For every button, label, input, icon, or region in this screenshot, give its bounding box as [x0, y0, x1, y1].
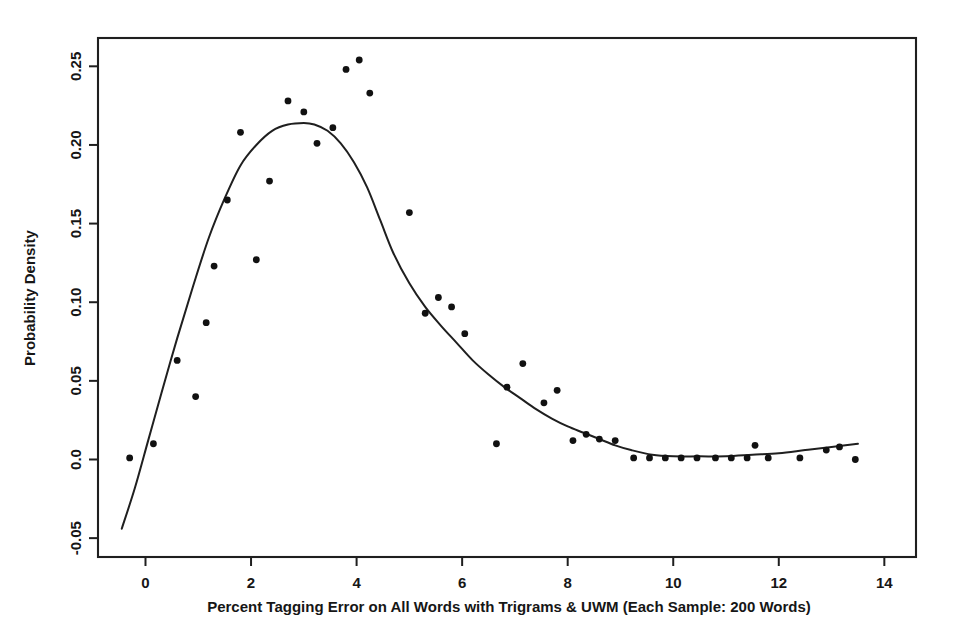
x-axis-title: Percent Tagging Error on All Words with … — [207, 598, 811, 615]
x-axis-tick-label: 0 — [141, 574, 149, 591]
y-axis-tick-label: 0.05 — [68, 366, 85, 395]
scatter-point — [712, 455, 719, 462]
x-axis-tick-label: 2 — [247, 574, 255, 591]
scatter-point — [211, 263, 218, 270]
scatter-point — [174, 357, 181, 364]
scatter-point — [852, 456, 859, 463]
scatter-point — [224, 197, 231, 204]
scatter-point — [422, 310, 429, 317]
y-axis-tick-label: 0.20 — [68, 130, 85, 159]
scatter-point — [406, 209, 413, 216]
scatter-point — [583, 431, 590, 438]
scatter-point — [823, 447, 830, 454]
x-axis-tick-label: 10 — [665, 574, 682, 591]
scatter-point — [192, 393, 199, 400]
x-axis-tick-label: 4 — [352, 574, 361, 591]
scatter-point — [541, 399, 548, 406]
scatter-point — [343, 66, 350, 73]
scatter-point — [435, 294, 442, 301]
scatter-point — [646, 455, 653, 462]
scatter-point — [253, 256, 260, 263]
scatter-point — [493, 440, 500, 447]
scatter-point — [570, 437, 577, 444]
y-axis-tick-label: 0.25 — [68, 52, 85, 81]
scatter-point — [329, 124, 336, 131]
plot-background — [0, 0, 958, 642]
scatter-point — [612, 437, 619, 444]
scatter-point — [504, 384, 511, 391]
x-axis-tick-label: 12 — [770, 574, 787, 591]
scatter-point — [285, 98, 292, 105]
scatter-point — [300, 109, 307, 116]
scatter-point — [836, 444, 843, 451]
figure-container: 02468101214-0.050.00.050.100.150.200.25 … — [0, 0, 958, 642]
y-axis-tick-label: -0.05 — [68, 521, 85, 555]
scatter-point — [752, 442, 759, 449]
y-axis-title: Probability Density — [21, 229, 38, 366]
scatter-point — [728, 455, 735, 462]
y-axis-tick-label: 0.0 — [68, 449, 85, 470]
scatter-point — [366, 90, 373, 97]
scatter-point — [694, 455, 701, 462]
scatter-point — [237, 129, 244, 136]
scatter-point — [678, 455, 685, 462]
scatter-point — [797, 455, 804, 462]
scatter-point — [554, 387, 561, 394]
scatter-point — [519, 360, 526, 367]
scatter-point — [461, 330, 468, 337]
scatter-point — [662, 455, 669, 462]
scatter-point — [126, 455, 133, 462]
scatter-point — [356, 57, 363, 64]
scatter-point — [266, 178, 273, 185]
scatter-point — [314, 140, 321, 147]
scatter-point — [150, 440, 157, 447]
density-plot: 02468101214-0.050.00.050.100.150.200.25 … — [0, 0, 958, 642]
y-axis-tick-label: 0.15 — [68, 209, 85, 238]
x-axis-tick-label: 8 — [564, 574, 572, 591]
scatter-point — [448, 304, 455, 311]
scatter-point — [744, 455, 751, 462]
scatter-point — [203, 319, 210, 326]
y-axis-tick-label: 0.10 — [68, 288, 85, 317]
scatter-point — [596, 436, 603, 443]
scatter-point — [630, 455, 637, 462]
scatter-point — [765, 455, 772, 462]
x-axis-tick-label: 6 — [458, 574, 466, 591]
x-axis-tick-label: 14 — [876, 574, 893, 591]
